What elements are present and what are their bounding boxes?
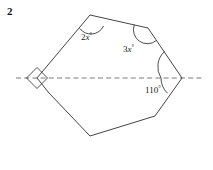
degree-symbol-2x: °	[90, 31, 93, 38]
heptagon-outline	[37, 15, 182, 136]
angle-label-2x: 2x°	[81, 31, 93, 43]
geometry-figure: 2x° 3x° 110°	[0, 0, 213, 170]
angle-arc-right-vertex-lower	[161, 78, 168, 93]
angle-label-3x: 3x°	[123, 43, 135, 55]
angle-arc-right-vertex-upper	[158, 52, 165, 79]
figure-stage: 2 2x° 3x° 110°	[0, 0, 213, 170]
angle-label-110-value: 110	[145, 85, 159, 95]
degree-symbol-110: °	[158, 84, 161, 91]
degree-symbol-3x: °	[132, 43, 135, 50]
angle-label-110: 110°	[145, 84, 161, 96]
